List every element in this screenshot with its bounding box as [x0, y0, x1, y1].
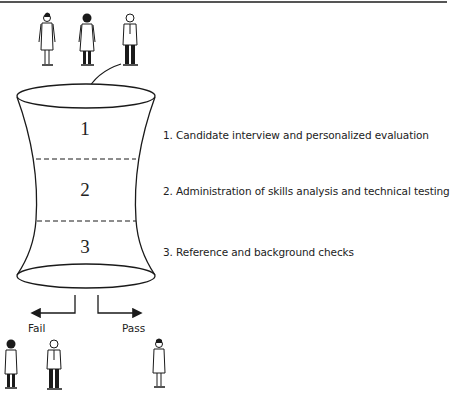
stage-label-3: 3. Reference and background checks	[163, 246, 354, 258]
candidate-figure-woman-2	[79, 14, 95, 66]
pass-label: Pass	[122, 322, 145, 334]
funnel-bottom-rim	[17, 264, 155, 288]
stage-number-1: 1	[75, 118, 95, 140]
funnel-top-rim	[17, 84, 155, 108]
candidate-figure-man-1	[123, 14, 138, 65]
stage-number-3: 3	[75, 236, 95, 258]
candidate-figure-woman-1	[39, 13, 55, 66]
fail-label: Fail	[28, 322, 45, 334]
passed-figure-woman	[153, 339, 165, 388]
stage-label-2: 2. Administration of skills analysis and…	[163, 185, 450, 197]
funnel-right-side	[135, 97, 155, 275]
stage-number-2: 2	[75, 179, 95, 201]
fail-arrow	[33, 295, 75, 313]
pass-arrow	[98, 295, 140, 313]
failed-figure-man	[47, 340, 62, 389]
funnel-left-side	[17, 97, 37, 275]
failed-figure-woman	[5, 340, 17, 389]
stage-label-1: 1. Candidate interview and personalized …	[163, 129, 429, 141]
